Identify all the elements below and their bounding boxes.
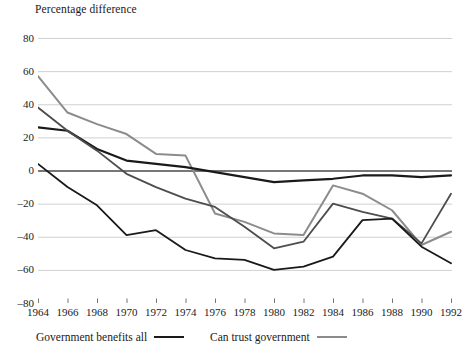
series-line-line-4 — [38, 164, 451, 270]
series-line-can-trust-government — [38, 76, 451, 245]
plot-svg — [38, 38, 452, 303]
legend-label: Can trust government — [210, 330, 310, 344]
plot-area — [38, 38, 452, 303]
chart-axis-title: Percentage difference — [35, 3, 137, 15]
y-axis-tick-label: 60 — [4, 66, 34, 77]
chart-figure: Percentage difference 806040200–20–40–60… — [0, 0, 464, 350]
legend-label: Government benefits all — [36, 330, 147, 344]
legend-color-swatch — [317, 336, 347, 338]
x-axis-tick-labels: 1964196619681970197219741976197819801982… — [38, 306, 452, 322]
legend-item[interactable]: Can trust government — [210, 330, 347, 344]
x-axis-tick-label: 1992 — [431, 306, 464, 319]
y-axis-tick-label: 40 — [4, 99, 34, 110]
legend-color-swatch — [154, 336, 184, 338]
x-axis-ticks — [38, 299, 452, 304]
y-axis-tick-labels: 806040200–20–40–60–80 — [0, 0, 34, 350]
y-axis-tick-label: –20 — [4, 198, 34, 209]
chart-legend: Government benefits allCan trust governm… — [0, 330, 464, 350]
legend-item[interactable]: Government benefits all — [36, 330, 184, 344]
y-axis-tick-label: –40 — [4, 231, 34, 242]
series-line-government-benefits-all — [38, 127, 451, 182]
y-axis-tick-label: 0 — [4, 165, 34, 176]
y-axis-tick-label: 20 — [4, 132, 34, 143]
y-axis-tick-label: –60 — [4, 264, 34, 275]
y-axis-tick-label: 80 — [4, 33, 34, 44]
